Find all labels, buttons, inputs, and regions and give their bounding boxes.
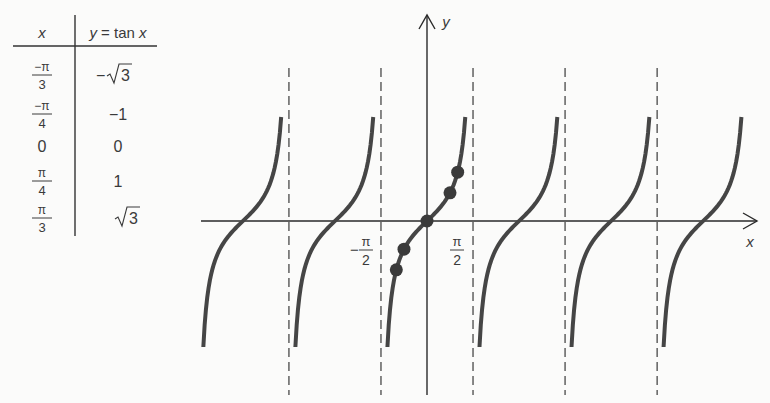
tan-graph: x y −π2π2: [201, 13, 757, 395]
tan-curve-branches: [203, 117, 741, 347]
tick-label: −π2: [350, 234, 373, 268]
data-point: [390, 263, 403, 276]
table-cell-y: 1: [114, 173, 123, 190]
table-cell-x: 0: [38, 138, 47, 155]
tan-branch-curve: [295, 117, 373, 347]
y-axis-label: y: [441, 13, 451, 30]
tan-branch-curve: [572, 117, 650, 347]
table-cell-x-numerator: −π: [34, 99, 49, 113]
table-row: π33: [32, 203, 140, 235]
table-row: −π3−3: [32, 60, 132, 92]
table-cell-x-numerator: π: [38, 166, 46, 180]
tick-label: π2: [450, 234, 464, 268]
table-cell-y: 0: [114, 138, 123, 155]
table-cell-y-radicand: 3: [121, 67, 130, 84]
table-cell-x-numerator: −π: [34, 60, 49, 74]
table-header-x: x: [37, 24, 46, 41]
table-cell-x-denominator: 4: [38, 116, 45, 131]
data-point: [397, 243, 410, 256]
table-cell-x-denominator: 3: [38, 220, 45, 235]
tick-label-denominator: 2: [453, 252, 461, 268]
table-row: −π4−1: [32, 99, 127, 131]
table-row: π41: [32, 166, 123, 198]
data-point: [421, 215, 434, 228]
tick-label-numerator: π: [361, 234, 370, 249]
table-header-y: y = tan x: [88, 24, 147, 41]
table-cell-x-numerator: π: [38, 203, 46, 217]
table-rows: −π3−3−π4−100π41π33: [32, 60, 140, 235]
table-cell-y-sign: −: [96, 67, 105, 84]
table-cell-y-radicand: 3: [129, 210, 138, 227]
tan-branch-curve: [203, 117, 281, 347]
x-axis-label: x: [745, 233, 754, 250]
data-point: [444, 186, 457, 199]
tangent-graph-figure: x y = tan x −π3−3−π4−100π41π33 x y −π2π2: [0, 0, 770, 403]
table-cell-y: −1: [109, 106, 127, 123]
tan-branch-curve: [479, 117, 557, 347]
table-row: 00: [38, 138, 123, 155]
tick-label-sign: −: [350, 241, 359, 258]
tick-label-numerator: π: [453, 234, 462, 249]
table-cell-x-denominator: 3: [38, 77, 45, 92]
value-table: x y = tan x −π3−3−π4−100π41π33: [13, 15, 157, 236]
tan-branch-curve: [664, 117, 742, 347]
table-cell-x-denominator: 4: [38, 183, 45, 198]
tick-label-denominator: 2: [362, 252, 370, 268]
data-point: [451, 166, 464, 179]
